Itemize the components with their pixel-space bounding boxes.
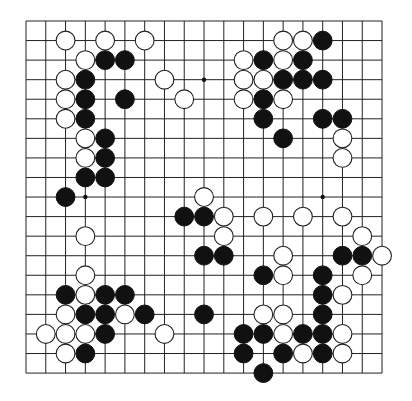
star-point	[83, 195, 87, 199]
black-stone[interactable]	[195, 207, 214, 226]
white-stone[interactable]	[274, 90, 293, 109]
white-stone[interactable]	[333, 325, 352, 344]
black-stone[interactable]	[76, 305, 95, 324]
white-stone[interactable]	[333, 285, 352, 304]
black-stone[interactable]	[96, 51, 115, 70]
black-stone[interactable]	[96, 285, 115, 304]
white-stone[interactable]	[353, 266, 372, 285]
black-stone[interactable]	[234, 325, 253, 344]
black-stone[interactable]	[76, 168, 95, 187]
white-stone[interactable]	[274, 51, 293, 70]
black-stone[interactable]	[96, 325, 115, 344]
white-stone[interactable]	[155, 70, 174, 89]
black-stone[interactable]	[96, 149, 115, 168]
white-stone[interactable]	[294, 344, 313, 363]
black-stone[interactable]	[254, 109, 273, 128]
white-stone[interactable]	[234, 70, 253, 89]
black-stone[interactable]	[96, 129, 115, 148]
white-stone[interactable]	[274, 325, 293, 344]
black-stone[interactable]	[313, 305, 332, 324]
black-stone[interactable]	[313, 344, 332, 363]
black-stone[interactable]	[175, 207, 194, 226]
black-stone[interactable]	[274, 344, 293, 363]
white-stone[interactable]	[76, 285, 95, 304]
white-stone[interactable]	[36, 325, 55, 344]
white-stone[interactable]	[254, 70, 273, 89]
black-stone[interactable]	[294, 325, 313, 344]
white-stone[interactable]	[333, 344, 352, 363]
black-stone[interactable]	[76, 70, 95, 89]
black-stone[interactable]	[294, 70, 313, 89]
white-stone[interactable]	[76, 266, 95, 285]
black-stone[interactable]	[254, 51, 273, 70]
white-stone[interactable]	[116, 305, 135, 324]
white-stone[interactable]	[56, 70, 75, 89]
white-stone[interactable]	[254, 207, 273, 226]
white-stone[interactable]	[274, 266, 293, 285]
white-stone[interactable]	[373, 246, 392, 265]
white-stone[interactable]	[56, 325, 75, 344]
white-stone[interactable]	[333, 207, 352, 226]
black-stone[interactable]	[116, 51, 135, 70]
white-stone[interactable]	[274, 246, 293, 265]
black-stone[interactable]	[313, 109, 332, 128]
white-stone[interactable]	[214, 207, 233, 226]
white-stone[interactable]	[155, 325, 174, 344]
black-stone[interactable]	[214, 246, 233, 265]
white-stone[interactable]	[234, 51, 253, 70]
black-stone[interactable]	[333, 109, 352, 128]
white-stone[interactable]	[333, 149, 352, 168]
black-stone[interactable]	[56, 285, 75, 304]
black-stone[interactable]	[96, 168, 115, 187]
black-stone[interactable]	[313, 325, 332, 344]
black-stone[interactable]	[294, 51, 313, 70]
black-stone[interactable]	[76, 344, 95, 363]
white-stone[interactable]	[76, 51, 95, 70]
white-stone[interactable]	[294, 31, 313, 50]
white-stone[interactable]	[214, 227, 233, 246]
black-stone[interactable]	[254, 266, 273, 285]
black-stone[interactable]	[313, 285, 332, 304]
white-stone[interactable]	[353, 227, 372, 246]
white-stone[interactable]	[333, 129, 352, 148]
white-stone[interactable]	[135, 31, 154, 50]
black-stone[interactable]	[135, 305, 154, 324]
white-stone[interactable]	[254, 305, 273, 324]
white-stone[interactable]	[76, 227, 95, 246]
white-stone[interactable]	[56, 31, 75, 50]
black-stone[interactable]	[254, 325, 273, 344]
black-stone[interactable]	[195, 246, 214, 265]
white-stone[interactable]	[294, 207, 313, 226]
black-stone[interactable]	[254, 364, 273, 383]
black-stone[interactable]	[274, 70, 293, 89]
black-stone[interactable]	[76, 90, 95, 109]
white-stone[interactable]	[76, 149, 95, 168]
white-stone[interactable]	[274, 305, 293, 324]
go-board[interactable]	[0, 0, 412, 401]
white-stone[interactable]	[76, 325, 95, 344]
white-stone[interactable]	[96, 31, 115, 50]
black-stone[interactable]	[353, 246, 372, 265]
black-stone[interactable]	[116, 285, 135, 304]
black-stone[interactable]	[254, 90, 273, 109]
white-stone[interactable]	[274, 31, 293, 50]
black-stone[interactable]	[76, 109, 95, 128]
black-stone[interactable]	[313, 266, 332, 285]
black-stone[interactable]	[116, 90, 135, 109]
white-stone[interactable]	[76, 129, 95, 148]
white-stone[interactable]	[56, 344, 75, 363]
black-stone[interactable]	[274, 129, 293, 148]
black-stone[interactable]	[96, 305, 115, 324]
white-stone[interactable]	[56, 109, 75, 128]
black-stone[interactable]	[313, 70, 332, 89]
white-stone[interactable]	[234, 90, 253, 109]
black-stone[interactable]	[195, 305, 214, 324]
white-stone[interactable]	[195, 188, 214, 207]
white-stone[interactable]	[175, 90, 194, 109]
black-stone[interactable]	[333, 246, 352, 265]
black-stone[interactable]	[313, 31, 332, 50]
black-stone[interactable]	[56, 188, 75, 207]
white-stone[interactable]	[56, 305, 75, 324]
white-stone[interactable]	[56, 90, 75, 109]
black-stone[interactable]	[234, 344, 253, 363]
